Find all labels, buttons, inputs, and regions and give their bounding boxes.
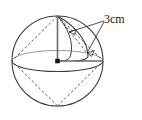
leader-arrowhead-upper-icon [69, 30, 76, 35]
sphere-center-point [55, 59, 60, 64]
cone-edge-south-right-hidden [58, 61, 104, 106]
cone-edge-north-left-hidden [12, 16, 58, 61]
radius-measure-label: 3cm [104, 13, 125, 25]
meridian-petal-outer [58, 16, 89, 61]
cone-edge-south-left-hidden [12, 61, 58, 106]
cone-edge-north-right-hidden [58, 16, 104, 61]
sphere-diagram: 3cm [0, 0, 142, 120]
